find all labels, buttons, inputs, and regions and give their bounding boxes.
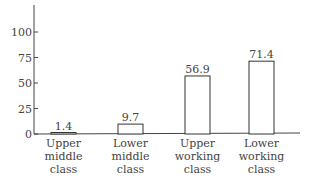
bar	[185, 76, 210, 134]
value-label: 9.7	[122, 111, 140, 124]
labels: 1.4Uppermiddleclass9.7Lowermiddleclass56…	[44, 48, 284, 176]
category-label: Upper	[180, 137, 216, 150]
bar	[118, 124, 143, 134]
y-tick-label: 75	[18, 52, 32, 65]
y-tick-label: 100	[11, 26, 32, 39]
category-label: class	[248, 163, 276, 176]
category-label: middle	[111, 150, 149, 163]
category-label: class	[50, 163, 78, 176]
category-label: working	[175, 150, 221, 163]
bar	[249, 61, 274, 134]
value-label: 71.4	[249, 48, 274, 61]
category-label: Upper	[46, 137, 82, 150]
y-tick-label: 50	[18, 77, 32, 90]
bars	[51, 61, 274, 134]
category-label: middle	[44, 150, 82, 163]
category-label: class	[184, 163, 212, 176]
category-label: working	[239, 150, 285, 163]
category-label: Lower	[244, 137, 280, 150]
category-label: class	[117, 163, 145, 176]
y-tick-label: 25	[18, 103, 32, 116]
bar-chart: 0255075100 1.4Uppermiddleclass9.7Lowermi…	[0, 0, 316, 185]
y-tick-label: 0	[25, 128, 32, 141]
category-label: Lower	[113, 137, 149, 150]
bar	[51, 133, 76, 135]
value-label: 1.4	[55, 120, 73, 133]
value-label: 56.9	[185, 63, 210, 76]
